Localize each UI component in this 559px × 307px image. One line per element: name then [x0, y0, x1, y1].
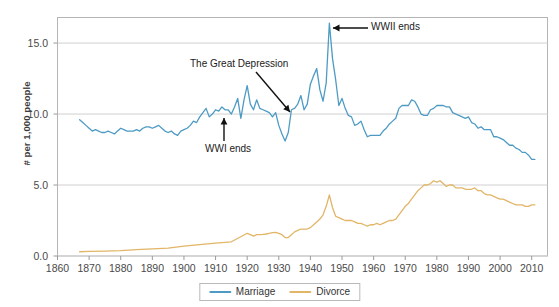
x-tick-marks: [58, 256, 532, 260]
legend-item-divorce[interactable]: Divorce: [289, 286, 350, 297]
legend-label-divorce: Divorce: [316, 286, 350, 297]
series-line-marriage: [80, 23, 535, 159]
chart-legend: Marriage Divorce: [199, 283, 360, 301]
wwi-ends-annotation-label: WWI ends: [205, 143, 251, 154]
great-depression-annotation-label: The Great Depression: [190, 58, 288, 69]
gridlines: [58, 43, 548, 256]
wwi-ends-arrow: [221, 118, 228, 141]
legend-label-marriage: Marriage: [236, 286, 275, 297]
legend-item-marriage[interactable]: Marriage: [209, 286, 275, 297]
y-axis-title: # per 1,000 people: [21, 54, 32, 194]
legend-swatch-marriage: [209, 291, 231, 293]
data-series-layer: [80, 23, 535, 252]
y-tick-label-5: 5.0: [14, 179, 48, 191]
wwii-ends-arrow: [333, 25, 368, 32]
x-tick-label-2010: 2010: [512, 262, 552, 274]
grid-and-axes: [54, 18, 548, 261]
y-tick-label-0: 0.0: [14, 250, 48, 262]
legend-swatch-divorce: [289, 291, 311, 293]
marriage-divorce-rate-chart: # per 1,000 people 15.0 10.0 5.0 0.0 186…: [0, 0, 559, 307]
y-tick-marks: [54, 43, 58, 256]
series-line-divorce: [80, 181, 535, 252]
annotation-arrows: [221, 25, 368, 141]
y-tick-label-15: 15.0: [14, 37, 48, 49]
great-depression-arrow: [256, 72, 290, 112]
y-tick-label-10: 10.0: [14, 108, 48, 120]
wwii-ends-annotation-label: WWII ends: [371, 21, 420, 32]
chart-plot-area: [0, 0, 559, 307]
plot-border: [58, 18, 548, 257]
